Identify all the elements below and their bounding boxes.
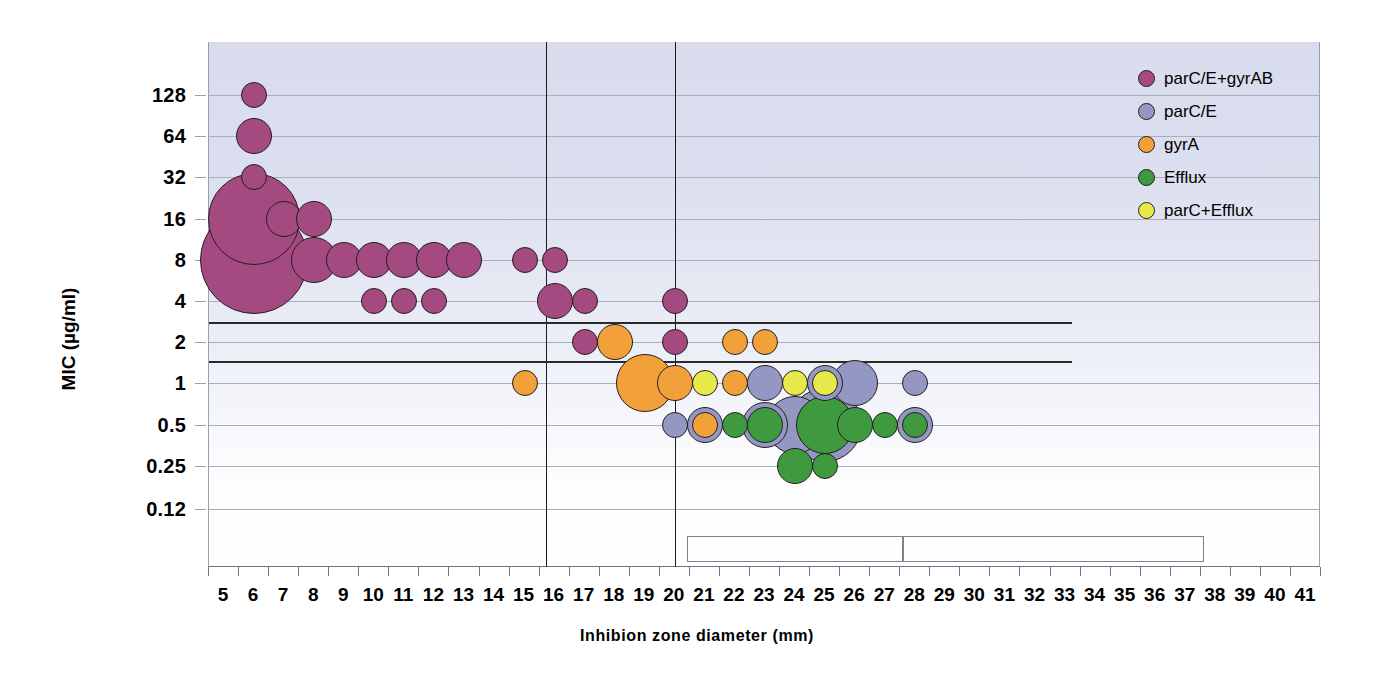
x-axis-tick-label: 9 (338, 584, 349, 606)
y-axis-tick (195, 466, 206, 467)
legend-item-label: Efflux (1164, 168, 1206, 188)
y-axis-tick (195, 509, 206, 510)
x-axis-tick (358, 567, 359, 576)
data-bubble (692, 412, 718, 438)
data-bubble (747, 407, 783, 443)
x-axis-tick-label: 30 (964, 584, 985, 606)
y-axis-tick-label: 1 (175, 372, 186, 395)
x-axis-tick-label: 6 (248, 584, 259, 606)
x-axis-tick-label: 23 (753, 584, 774, 606)
y-axis-tick-label: 0.12 (146, 498, 186, 521)
data-bubble (812, 453, 838, 479)
x-axis-tick (1200, 567, 1201, 576)
x-axis-tick-label: 41 (1294, 584, 1315, 606)
y-axis-tick (195, 383, 206, 384)
x-axis-tick (479, 567, 480, 576)
data-bubble (572, 288, 598, 314)
y-axis-tick (195, 177, 206, 178)
legend-item-label: parC/E (1164, 102, 1217, 122)
x-axis-tick-label: 27 (874, 584, 895, 606)
x-axis-tick (689, 567, 690, 576)
legend-swatch-icon (1138, 136, 1155, 153)
x-axis-tick (298, 567, 299, 576)
x-axis-tick (1290, 567, 1291, 576)
y-axis-tick-label: 128 (152, 84, 186, 107)
x-axis-tick (989, 567, 990, 576)
x-axis-tick-label: 32 (1024, 584, 1045, 606)
legend-item-1[interactable]: parC/E (1138, 95, 1388, 128)
x-axis-tick (1050, 567, 1051, 576)
x-axis-tick-label: 28 (904, 584, 925, 606)
x-axis-tick-label: 40 (1264, 584, 1285, 606)
x-axis-tick-label: 31 (994, 584, 1015, 606)
data-bubble (241, 164, 267, 190)
y-axis-tick (195, 301, 206, 302)
x-axis-tick-label: 8 (308, 584, 319, 606)
legend-item-2[interactable]: gyrA (1138, 128, 1388, 161)
x-axis-tick (1080, 567, 1081, 576)
data-bubble (902, 370, 928, 396)
x-axis-tick (899, 567, 900, 576)
x-axis-tick-label: 26 (844, 584, 865, 606)
y-axis-tick-label: 16 (163, 207, 186, 230)
x-axis-tick (1140, 567, 1141, 576)
x-axis-tick (869, 567, 870, 576)
data-bubble (837, 407, 873, 443)
x-axis-tick-label: 13 (453, 584, 474, 606)
x-axis-tick (509, 567, 510, 576)
x-axis-tick-label: 35 (1114, 584, 1135, 606)
data-bubble (361, 288, 387, 314)
legend-item-3[interactable]: Efflux (1138, 161, 1388, 194)
x-axis-tick-label: 29 (934, 584, 955, 606)
data-bubble (662, 288, 688, 314)
y-axis-tick-label: 32 (163, 166, 186, 189)
legend-item-label: gyrA (1164, 135, 1199, 155)
y-axis-tick-label: 0.5 (158, 413, 186, 436)
legend-swatch-icon (1138, 70, 1155, 87)
y-axis-tick (195, 95, 206, 96)
x-axis-tick (839, 567, 840, 576)
x-axis-tick-label: 25 (814, 584, 835, 606)
y-axis-tick (195, 342, 206, 343)
x-axis-tick-label: 15 (513, 584, 534, 606)
x-axis-tick-label: 38 (1204, 584, 1225, 606)
data-bubble (542, 247, 568, 273)
y-axis-tick-label: 8 (175, 248, 186, 271)
x-axis-tick-label: 12 (423, 584, 444, 606)
x-axis-tick-label: 37 (1174, 584, 1195, 606)
y-axis-tick (195, 136, 206, 137)
data-bubble (512, 370, 538, 396)
x-axis-tick (1320, 567, 1321, 576)
y-axis-tick-label: 0.25 (146, 454, 186, 477)
x-axis-tick (1260, 567, 1261, 576)
legend: parC/E+gyrABparC/EgyrAEffluxparC+Efflux (1138, 62, 1388, 227)
x-axis-tick-label: 19 (633, 584, 654, 606)
data-bubble (662, 412, 688, 438)
x-axis-tick (569, 567, 570, 576)
data-bubble (722, 412, 748, 438)
x-axis-tick-label: 20 (663, 584, 684, 606)
data-bubble (421, 288, 447, 314)
annotation-box (903, 536, 1204, 562)
legend-item-0[interactable]: parC/E+gyrAB (1138, 62, 1388, 95)
data-bubble (812, 370, 838, 396)
x-axis-tick-label: 11 (393, 584, 413, 606)
data-bubble (747, 365, 783, 401)
x-axis-tick (448, 567, 449, 576)
legend-item-label: parC/E+gyrAB (1164, 69, 1273, 89)
x-axis-tick (1019, 567, 1020, 576)
x-axis-tick (719, 567, 720, 576)
data-bubble (241, 82, 267, 108)
x-axis-tick-label: 36 (1144, 584, 1165, 606)
x-axis-tick-label: 39 (1234, 584, 1255, 606)
legend-item-4[interactable]: parC+Efflux (1138, 194, 1388, 227)
data-bubble (662, 329, 688, 355)
data-bubble (446, 242, 482, 278)
y-axis-title: MIC (µg/ml) (58, 287, 80, 390)
x-axis-tick (659, 567, 660, 576)
x-axis-tick (1170, 567, 1171, 576)
data-bubble (752, 329, 778, 355)
gridline-horizontal (209, 466, 1319, 467)
data-bubble (537, 283, 573, 319)
y-axis-tick-label: 4 (175, 290, 186, 313)
